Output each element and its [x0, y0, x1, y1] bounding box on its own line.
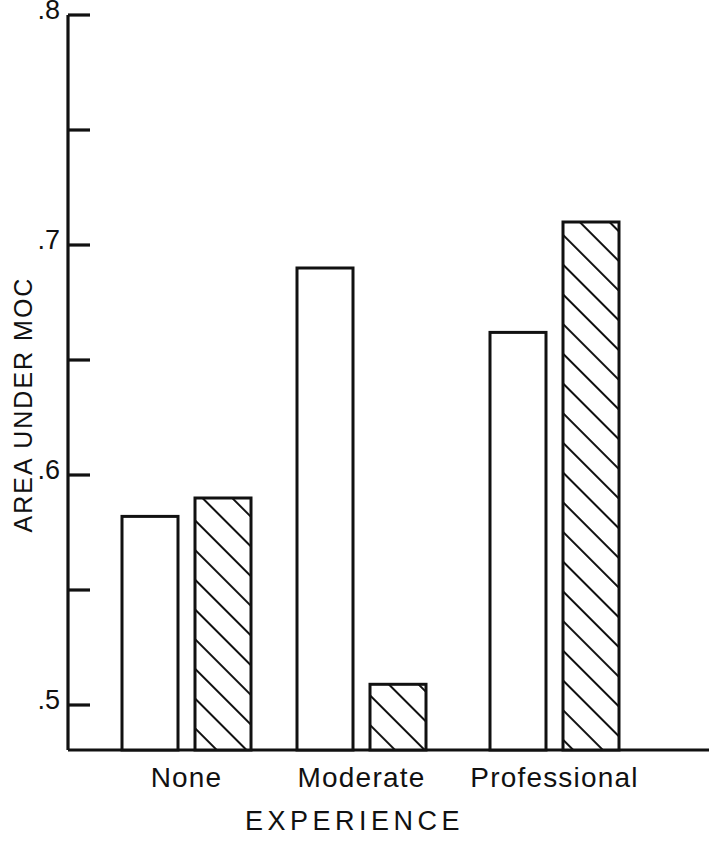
- x-axis-title: EXPERIENCE: [0, 806, 709, 837]
- bar-professional-hatched: [563, 222, 619, 750]
- bar-professional-open: [490, 332, 546, 750]
- bar-none-open: [122, 516, 178, 750]
- x-axis-category-label-professional: Professional: [405, 762, 705, 794]
- bar-moderate-hatched: [370, 684, 426, 750]
- y-axis-tick-label: .5: [0, 685, 60, 716]
- y-axis-tick-label: .8: [0, 0, 60, 26]
- y-axis-title: AREA UNDER MOC: [9, 255, 38, 555]
- bar-chart: .5.6.7.8 NoneModerateProfessional AREA U…: [0, 0, 709, 848]
- bar-none-hatched: [195, 498, 251, 750]
- bar-moderate-open: [297, 268, 353, 750]
- bars: [122, 222, 619, 750]
- y-axis-tick-label: .7: [0, 225, 60, 256]
- chart-plot-area: [0, 0, 709, 848]
